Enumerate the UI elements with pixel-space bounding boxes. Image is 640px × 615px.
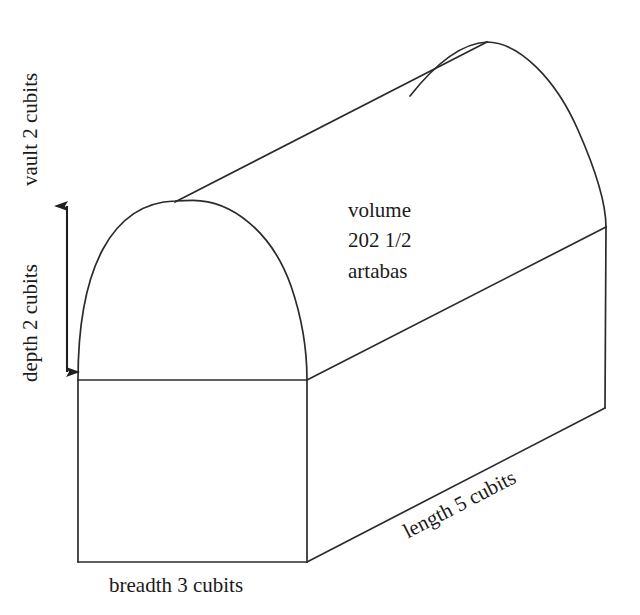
side-wall-bottom-edge — [307, 408, 605, 562]
breadth-label: breadth 3 cubits — [109, 571, 243, 600]
volume-annotation-line-2: 202 1/2 — [348, 225, 412, 255]
granary-line-drawing — [0, 0, 640, 615]
rear-arch-curve — [410, 42, 606, 227]
front-arch-curve — [78, 200, 307, 380]
depth-label: depth 2 cubits — [16, 264, 45, 382]
volume-annotation: volume 202 1/2 artabas — [348, 195, 412, 286]
volume-annotation-line-3: artabas — [348, 256, 412, 286]
volume-annotation-line-1: volume — [348, 195, 412, 225]
vault-top-ridge-line — [175, 42, 487, 202]
diagram-canvas: vault 2 cubits depth 2 cubits breadth 3 … — [0, 0, 640, 615]
vault-height-label: vault 2 cubits — [16, 73, 45, 186]
rear-right-wall-edge — [605, 227, 606, 408]
